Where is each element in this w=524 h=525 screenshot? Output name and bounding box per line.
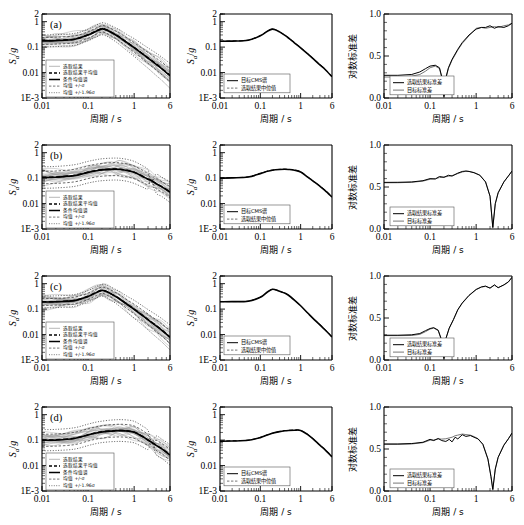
target-cms-curve	[220, 169, 332, 197]
y-ticklabel: 0.5	[369, 313, 381, 323]
x-ticklabel: 1	[298, 494, 303, 504]
y-ticklabel: 0.0	[369, 355, 381, 365]
legend-label: 选取结果平均值	[63, 69, 98, 76]
x-ticklabel: 6	[330, 363, 335, 373]
x-ticklabel: 6	[168, 494, 173, 504]
legend-label: 选取结果平均值	[63, 462, 98, 469]
x-ticklabel: 0.1	[254, 101, 266, 111]
figure-row-a: 0.010.1161E-30.010.112周期 / sSa/g(a)选取结果选…	[0, 0, 524, 131]
legend-label: 选取结果标准差	[407, 471, 442, 479]
x-axis-label: 周期 / s	[260, 376, 292, 386]
y-ticklabel: 0.01	[22, 461, 39, 471]
x-ticklabel: 1	[298, 363, 303, 373]
x-ticklabel: 1	[132, 232, 137, 242]
x-axis-label: 周期 / s	[432, 507, 464, 517]
legend-label: 均值 +/-σ	[63, 344, 85, 351]
y-ticklabel: 0.1	[205, 173, 217, 183]
legend-label: 选取结果	[63, 456, 83, 463]
x-axis-label: 周期 / s	[90, 376, 122, 386]
legend-label: 均值 +/-1.96σ	[63, 220, 95, 227]
y-ticklabel: 2	[212, 140, 217, 150]
svg-text:对数标准差: 对数标准差	[347, 296, 358, 341]
legend-label: 选取结果平均值	[63, 200, 98, 207]
y-ticklabel: 2	[34, 9, 39, 19]
y-axis-label: Sa/g	[7, 179, 21, 195]
target-cms-curve	[220, 430, 332, 457]
y-ticklabel: 0.1	[27, 42, 39, 52]
x-ticklabel: 6	[510, 232, 515, 242]
svg-text:Sa/g: Sa/g	[7, 310, 21, 326]
svg-text:Sa/g: Sa/g	[185, 441, 199, 457]
y-ticklabel: 0.01	[200, 330, 217, 340]
legend: 选取结果标准差目标标准差	[390, 76, 454, 95]
y-ticklabel: 2	[34, 140, 39, 150]
y-axis-label: Sa/g	[7, 48, 21, 64]
y-axis-label: 对数标准差	[347, 34, 358, 79]
y-ticklabel: 1E-3	[21, 486, 40, 496]
y-ticklabel: 1E-3	[21, 93, 40, 103]
x-ticklabel: 0.1	[82, 363, 94, 373]
x-ticklabel: 6	[168, 363, 173, 373]
legend-label: 目标标准差	[407, 348, 432, 356]
y-ticklabel: 0.1	[27, 435, 39, 445]
x-ticklabel: 1	[474, 101, 479, 111]
svg-text:Sa/g: Sa/g	[7, 48, 21, 64]
svg-text:Sa/g: Sa/g	[7, 179, 21, 195]
x-ticklabel: 0.1	[82, 232, 94, 242]
y-ticklabel: 0.5	[369, 444, 381, 454]
y-axis-label: 对数标准差	[347, 296, 358, 341]
legend-label: 目标标准差	[407, 86, 432, 94]
x-ticklabel: 0.1	[424, 494, 436, 504]
legend-label: 均值 +/-1.96σ	[63, 89, 95, 96]
legend: 目标CMS谱选取结果中位值	[224, 467, 290, 486]
y-ticklabel: 1.0	[369, 140, 381, 150]
c-cms: 0.010.1161E-30.010.112周期 / sSa/g目标CMS谱选取…	[180, 262, 340, 393]
legend-label: 目标标准差	[407, 217, 432, 225]
legend-label: 选取结果平均值	[63, 331, 98, 338]
d-cms: 0.010.1161E-30.010.112周期 / sSa/g目标CMS谱选取…	[180, 393, 340, 524]
y-ticklabel: 1.0	[369, 271, 381, 281]
panel-d-cms: 0.010.1161E-30.010.112周期 / sSa/g目标CMS谱选取…	[180, 393, 340, 524]
target-cms-curve	[220, 289, 332, 337]
x-ticklabel: 6	[168, 232, 173, 242]
y-ticklabel: 2	[212, 402, 217, 412]
y-ticklabel: 1E-3	[199, 224, 218, 234]
panel-tag: (d)	[50, 412, 63, 424]
y-axis-label: 对数标准差	[347, 427, 358, 472]
c-spectra: 0.010.1161E-30.010.112周期 / sSa/g(c)选取结果选…	[0, 262, 180, 393]
y-ticklabel: 0.1	[205, 304, 217, 314]
legend-label: 条件均值谱	[63, 338, 88, 345]
y-axis-label: Sa/g	[185, 179, 199, 195]
svg-text:对数标准差: 对数标准差	[347, 34, 358, 79]
x-axis-label: 周期 / s	[260, 507, 292, 517]
y-ticklabel: 0.0	[369, 224, 381, 234]
legend-label: 选取结果标准差	[407, 78, 442, 86]
figure-row-c: 0.010.1161E-30.010.112周期 / sSa/g(c)选取结果选…	[0, 262, 524, 393]
x-axis-label: 周期 / s	[432, 114, 464, 124]
x-ticklabel: 1	[474, 232, 479, 242]
legend-label: 目标CMS谱	[241, 207, 267, 215]
svg-text:对数标准差: 对数标准差	[347, 165, 358, 210]
legend-label: 选取结果中位值	[241, 215, 276, 223]
legend-label: 目标标准差	[407, 479, 432, 487]
y-ticklabel: 0.01	[22, 330, 39, 340]
x-ticklabel: 6	[168, 101, 173, 111]
x-ticklabel: 0.1	[82, 101, 94, 111]
a-cms: 0.010.1161E-30.010.112周期 / sSa/g目标CMS谱选取…	[180, 0, 340, 131]
x-ticklabel: 6	[510, 494, 515, 504]
legend-label: 选取结果	[63, 194, 83, 201]
x-axis-label: 周期 / s	[260, 114, 292, 124]
x-ticklabel: 0.1	[424, 232, 436, 242]
x-ticklabel: 1	[132, 101, 137, 111]
x-axis-label: 周期 / s	[90, 507, 122, 517]
x-ticklabel: 0.1	[254, 363, 266, 373]
x-axis-label: 周期 / s	[432, 245, 464, 255]
y-ticklabel: 0.01	[200, 461, 217, 471]
y-ticklabel: 1E-3	[21, 355, 40, 365]
panel-tag: (c)	[50, 281, 62, 293]
y-ticklabel: 1E-3	[199, 486, 218, 496]
b-spectra: 0.010.1161E-30.010.112周期 / sSa/g(b)选取结果选…	[0, 131, 180, 262]
y-ticklabel: 2	[212, 271, 217, 281]
panel-b-spectra: 0.010.1161E-30.010.112周期 / sSa/g(b)选取结果选…	[0, 131, 180, 262]
x-ticklabel: 6	[330, 232, 335, 242]
